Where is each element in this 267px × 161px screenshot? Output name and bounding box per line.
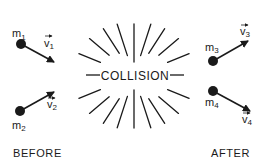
starburst-ray: [149, 99, 165, 124]
starburst-ray: [79, 54, 101, 63]
velocity-subscript: 2: [53, 103, 58, 112]
starburst-ray: [168, 54, 190, 63]
collision-diagram: COLLISION m1 v1 m2 v2 m3 v3 m4 v4 BEFORE…: [0, 0, 267, 161]
starburst-ray: [159, 39, 179, 56]
mass-subscript: 4: [214, 101, 219, 110]
starburst-ray: [141, 96, 151, 127]
starburst-ray: [79, 90, 101, 99]
starburst-ray: [103, 99, 119, 124]
starburst-ray: [117, 96, 127, 127]
svg-text:m2: m2: [12, 119, 26, 133]
before-caption: BEFORE: [13, 147, 62, 159]
starburst-ray: [117, 24, 127, 55]
mass-label: m: [205, 41, 214, 53]
starburst-ray: [159, 97, 179, 114]
mass-subscript: 1: [21, 33, 26, 42]
svg-text:m3: m3: [205, 41, 219, 55]
after-caption: AFTER: [211, 147, 250, 159]
starburst-ray: [90, 97, 110, 114]
mass-label: m: [205, 96, 214, 108]
svg-text:v2: v2: [47, 98, 58, 112]
mass-label: m: [12, 27, 21, 39]
starburst-ray: [168, 90, 190, 99]
velocity-subscript: 1: [50, 42, 55, 51]
particle-m4: m4 v4: [205, 86, 253, 127]
svg-text:m4: m4: [205, 96, 219, 110]
starburst-ray: [103, 29, 119, 54]
svg-text:v1: v1: [44, 37, 55, 51]
starburst-ray: [141, 24, 151, 55]
particle-m2: m2 v2: [12, 92, 58, 133]
svg-text:v3: v3: [240, 25, 251, 39]
velocity-subscript: 3: [246, 30, 251, 39]
collision-label: COLLISION: [101, 69, 170, 83]
mass-subscript: 3: [214, 46, 219, 55]
mass-label: m: [12, 119, 21, 131]
particle-m3: m3 v3: [205, 25, 251, 66]
particle-m1: m1 v1: [12, 27, 55, 62]
mass-subscript: 2: [21, 124, 26, 133]
starburst-ray: [90, 39, 110, 56]
starburst-ray: [149, 29, 165, 54]
velocity-subscript: 4: [248, 118, 253, 127]
svg-text:v4: v4: [242, 113, 253, 127]
